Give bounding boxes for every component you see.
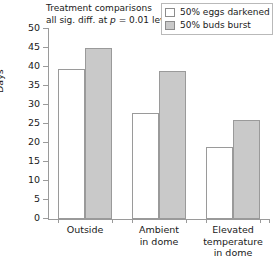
x-axis-tick <box>132 219 133 223</box>
annotation-line-1: Treatment comparisons <box>46 3 173 15</box>
x-axis-tick <box>206 219 207 223</box>
y-axis-tick-label: 15 <box>28 155 40 166</box>
bar <box>159 71 186 219</box>
y-axis-tick-label: 5 <box>34 193 40 204</box>
x-axis-tick <box>269 219 270 223</box>
chart-annotation: Treatment comparisons all sig. diff. at … <box>46 3 173 26</box>
y-axis-tick-label: 35 <box>28 79 40 90</box>
y-axis-tick: 35 <box>43 85 48 86</box>
y-axis-tick: 40 <box>43 66 48 67</box>
bar <box>206 147 233 219</box>
y-axis-tick: 10 <box>43 180 48 181</box>
y-axis-tick-label: 0 <box>34 212 40 223</box>
y-axis-tick-label: 45 <box>28 41 40 52</box>
y-axis-title: Days <box>0 69 5 93</box>
x-axis-tick <box>112 219 113 223</box>
y-axis-tick: 25 <box>43 123 48 124</box>
legend-swatch-icon-eggs-darkened <box>165 8 175 17</box>
plot-area: 05101520253035404550 <box>48 29 270 219</box>
y-axis-tick: 15 <box>43 161 48 162</box>
legend-item-eggs-darkened: 50% eggs darkened <box>165 6 269 18</box>
x-axis-category-label: Elevated temperature in dome <box>183 224 276 259</box>
y-axis-tick: 5 <box>43 199 48 200</box>
x-axis-tick <box>260 219 261 223</box>
y-axis-tick: 20 <box>43 142 48 143</box>
y-axis-tick: 45 <box>43 47 48 48</box>
bar <box>132 113 159 219</box>
y-axis-tick: 30 <box>43 104 48 105</box>
bar-chart-figure: Treatment comparisons all sig. diff. at … <box>0 0 276 262</box>
y-axis-tick: 50 <box>43 28 48 29</box>
annotation-line-2-prefix: all sig. diff. at <box>46 15 110 25</box>
y-axis-tick-label: 30 <box>28 98 40 109</box>
bar <box>85 48 112 219</box>
x-axis-line <box>48 219 270 220</box>
y-axis-tick-label: 25 <box>28 117 40 128</box>
y-axis-tick-label: 10 <box>28 174 40 185</box>
y-axis-tick-label: 40 <box>28 60 40 71</box>
legend-label-eggs-darkened: 50% eggs darkened <box>180 7 270 17</box>
bar <box>233 120 260 219</box>
y-axis-tick: 0 <box>43 218 48 219</box>
bar <box>58 69 85 219</box>
x-axis-tick <box>186 219 187 223</box>
x-axis-tick <box>58 219 59 223</box>
y-axis-tick-label: 50 <box>28 22 40 33</box>
annotation-line-2: all sig. diff. at p = 0.01 level <box>46 15 173 27</box>
y-axis-tick-label: 20 <box>28 136 40 147</box>
